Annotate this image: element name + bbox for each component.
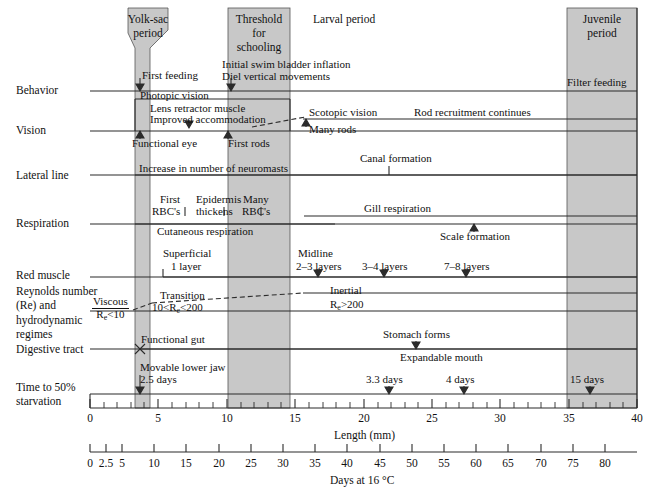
- event-stomach-forms: Stomach forms: [383, 329, 450, 341]
- length-tick-20: 20: [351, 412, 377, 424]
- event-15-days: 15 days: [570, 374, 604, 386]
- event-4-days: 4 days: [446, 374, 474, 386]
- band-title-yolk-sac-l1: Yolk-sac: [116, 13, 180, 27]
- event-photopic-vision: Photopic vision: [140, 90, 209, 102]
- event-2-3-layers: 2–3 layers: [296, 261, 342, 273]
- days-axis-title: Days at 16 °C: [330, 474, 394, 486]
- length-tick-40: 40: [624, 412, 648, 424]
- marker-stomach-forms: [412, 342, 420, 349]
- length-tick-25: 25: [419, 412, 445, 424]
- event-many-rods: Many rods: [309, 124, 356, 136]
- event-functional-eye: Functional eye: [132, 138, 197, 150]
- event-1-layer: 1 layer: [171, 261, 201, 273]
- length-axis-title: Length (mm): [334, 429, 395, 441]
- event-filter-feeding: Filter feeding: [567, 77, 627, 89]
- event-rod-recruitment-continues: Rod recruitment continues: [414, 107, 531, 119]
- event-increase-neuromasts: Increase in number of neuromasts: [139, 163, 288, 175]
- band-title-schooling-l1: Threshold: [228, 13, 290, 27]
- figure-canvas: Behavior Vision Lateral line Respiration…: [0, 0, 648, 492]
- band-title-yolk-sac-l2: period: [116, 27, 180, 41]
- event-superficial: Superficial: [163, 248, 211, 260]
- length-axis: [90, 399, 637, 408]
- row-label-reynolds: Reynolds number (Re) and hydrodynamic re…: [16, 284, 104, 342]
- event-rbcs-2: RBC's: [242, 206, 270, 218]
- event-inertial: Inertial: [330, 285, 362, 297]
- length-tick-15: 15: [282, 412, 308, 424]
- event-first: First: [160, 194, 180, 206]
- viscous-re-value: Re<10: [92, 309, 129, 322]
- row-label-vision: Vision: [16, 124, 46, 136]
- days-tick-15: 15: [173, 457, 199, 469]
- days-tick-75: 75: [560, 457, 586, 469]
- row-label-reynolds-l1: Reynolds number: [16, 284, 104, 298]
- event-scale-formation: Scale formation: [440, 231, 510, 243]
- event-scotopic-vision: Scotopic vision: [309, 107, 377, 119]
- event-2-5-days: 2.5 days: [140, 374, 177, 386]
- band-title-yolk-sac: Yolk-sac period: [116, 13, 180, 41]
- viscous-fraction: Viscous Re<10: [92, 296, 129, 322]
- band-title-juvenile-l2: period: [567, 27, 637, 41]
- band-title-schooling-l3: schooling: [228, 41, 290, 55]
- row-label-reynolds-l3: hydrodynamic: [16, 313, 104, 327]
- event-viscous-regime: Viscous Re<10: [92, 296, 129, 322]
- row-label-respiration: Respiration: [16, 217, 69, 229]
- row-label-behavior: Behavior: [16, 84, 58, 96]
- row-label-starvation-l2: starvation: [16, 394, 104, 408]
- days-tick-20: 20: [206, 457, 232, 469]
- length-tick-5: 5: [148, 412, 168, 424]
- event-initial-swim-bladder-inflation: Initial swim bladder inflation: [222, 59, 351, 71]
- row-label-starvation: Time to 50% starvation: [16, 380, 104, 409]
- marker-2-5-days: [136, 387, 144, 394]
- band-title-juvenile: Juvenile period: [567, 13, 637, 41]
- days-tick-5: 5: [115, 457, 129, 469]
- days-tick-60: 60: [463, 457, 489, 469]
- viscous-label: Viscous: [92, 296, 129, 309]
- band-title-schooling-l2: for: [228, 27, 290, 41]
- event-transition: Transition: [160, 290, 205, 302]
- event-rbcs-1: RBC's: [152, 206, 180, 218]
- days-tick-35: 35: [302, 457, 328, 469]
- band-title-schooling: Threshold for schooling: [228, 13, 290, 54]
- event-epidermis: Epidermis: [196, 194, 241, 206]
- row-label-lateral-line: Lateral line: [16, 169, 69, 181]
- event-transition-re-range: 10<Re<200: [152, 302, 203, 315]
- days-tick-80: 80: [592, 457, 618, 469]
- event-first-rods: First rods: [228, 138, 270, 150]
- event-3-3-days: 3.3 days: [366, 374, 403, 386]
- length-tick-30: 30: [487, 412, 513, 424]
- days-tick-55: 55: [431, 457, 457, 469]
- event-7-8-layers: 7–8 layers: [444, 261, 490, 273]
- row-label-reynolds-l2: (Re) and: [16, 298, 104, 312]
- row-label-red-muscle: Red muscle: [16, 269, 70, 281]
- days-axis: [90, 444, 637, 452]
- marker-4-days: [460, 387, 468, 394]
- event-gill-respiration: Gill respiration: [364, 203, 431, 215]
- marker-15-days: [586, 387, 594, 394]
- event-diel-vertical-movements: Diel vertical movements: [222, 71, 330, 83]
- event-cutaneous-respiration: Cutaneous respiration: [157, 226, 253, 238]
- days-tick-25: 25: [238, 457, 264, 469]
- dashed-viscous-to-transition: [133, 303, 152, 310]
- row-label-digestive: Digestive tract: [16, 343, 83, 355]
- event-expandable-mouth: Expandable mouth: [400, 352, 483, 364]
- event-functional-gut: Functional gut: [141, 334, 205, 346]
- length-tick-35: 35: [556, 412, 582, 424]
- event-inertial-re-value: Re>200: [330, 299, 364, 312]
- days-tick-70: 70: [528, 457, 554, 469]
- length-tick-10: 10: [214, 412, 240, 424]
- event-improved-accommodation: Improved accommodation: [150, 114, 266, 126]
- event-3-4-layers: 3–4 layers: [362, 261, 408, 273]
- days-tick-50: 50: [399, 457, 425, 469]
- band-title-juvenile-l1: Juvenile: [567, 13, 637, 27]
- days-tick-30: 30: [270, 457, 296, 469]
- event-first-feeding: First feeding: [142, 70, 198, 82]
- row-label-starvation-l1: Time to 50%: [16, 380, 104, 394]
- days-tick-40: 40: [334, 457, 360, 469]
- event-canal-formation: Canal formation: [360, 153, 432, 165]
- event-many: Many: [243, 194, 269, 206]
- row-label-reynolds-l4: regimes: [16, 327, 104, 341]
- period-label-larval: Larval period: [313, 13, 375, 27]
- days-tick-65: 65: [495, 457, 521, 469]
- length-tick-0: 0: [80, 412, 100, 424]
- marker-3-3-days: [385, 387, 393, 394]
